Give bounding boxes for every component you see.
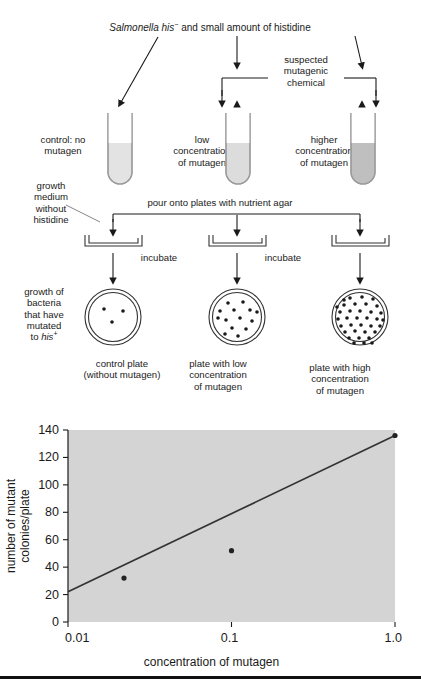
y-axis-title-group: number of mutantcolonies/plate	[4, 478, 32, 573]
x-axis-title: concentration of mutagen	[144, 655, 279, 669]
trough-outer-left	[85, 235, 142, 246]
tube-low-air	[226, 113, 250, 143]
y-axis-title-line-1: number of mutant	[4, 478, 18, 573]
petri-dish-low-inner	[213, 293, 262, 342]
colonies-control	[102, 307, 125, 324]
ames-test-diagram: Salmonella his− and small amount of hist…	[0, 0, 421, 400]
bottom-rule	[0, 676, 421, 679]
data-point-2	[392, 433, 397, 438]
arrow-to-high-tube-upper	[355, 36, 362, 66]
tube-high-air	[351, 113, 375, 143]
chart-canvas: 0204060801001201400.010.11.0concentratio…	[0, 400, 421, 690]
y-tick-label-140: 140	[38, 423, 59, 437]
trough-outer-right	[332, 235, 389, 246]
y-tick-label-0: 0	[52, 615, 59, 629]
x-tick-label-1: 0.1	[221, 631, 238, 645]
mutagen-dose-response-chart: 0204060801001201400.010.11.0concentratio…	[0, 400, 421, 690]
colonies-low	[216, 300, 259, 338]
x-tick-label-0: 0.01	[65, 631, 89, 645]
test-tube-high	[351, 113, 375, 184]
test-tube-control	[108, 113, 132, 184]
y-tick-label-20: 20	[45, 588, 59, 602]
y-tick-label-60: 60	[45, 533, 59, 547]
trough-outer-center	[209, 235, 266, 246]
trough-inner-right	[336, 235, 385, 243]
colonies-high	[335, 295, 385, 345]
y-tick-label-120: 120	[38, 450, 59, 464]
tube-control-air	[108, 113, 132, 143]
growth-medium-leader-line	[66, 205, 100, 222]
y-tick-label-80: 80	[45, 505, 59, 519]
data-point-1	[229, 548, 234, 553]
trough-inner-left	[89, 235, 138, 243]
y-tick-label-40: 40	[45, 560, 59, 574]
arrow-to-control-tube	[120, 37, 158, 104]
petri-dish-control-outer	[85, 289, 141, 345]
x-tick-label-2: 1.0	[385, 631, 402, 645]
test-tube-low	[226, 113, 250, 184]
y-axis-title-line-2: colonies/plate	[18, 489, 32, 563]
trough-inner-center	[213, 235, 262, 243]
y-tick-label-100: 100	[38, 478, 59, 492]
data-point-0	[121, 576, 126, 581]
diagram-vector-art	[0, 0, 421, 400]
petri-dish-control-inner	[89, 293, 138, 342]
